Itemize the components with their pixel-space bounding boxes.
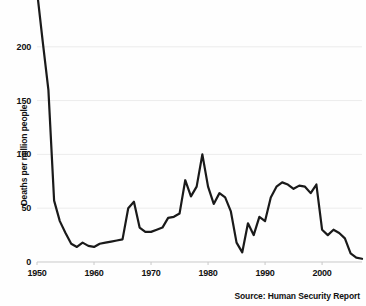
source-note: Source: Human Security Report	[234, 291, 360, 301]
gridlines	[37, 47, 362, 262]
chart-container: Deaths per million people 050100150200 1…	[0, 0, 366, 306]
data-series-line	[37, 0, 362, 259]
plot-area	[0, 0, 366, 306]
